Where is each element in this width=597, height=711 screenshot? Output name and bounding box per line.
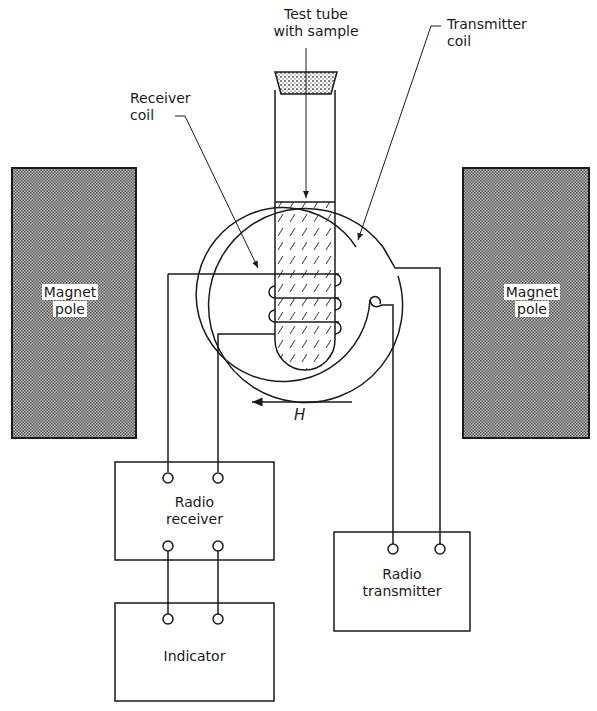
receiver-coil-pointer <box>175 116 258 268</box>
left-pole-label: Magnet pole <box>38 284 102 318</box>
label-line: Radio <box>115 494 274 511</box>
label-line: pole <box>53 301 87 317</box>
right-pole-label: Magnet pole <box>500 284 564 318</box>
label-line: receiver <box>115 511 274 528</box>
transmitter-coil-label: Transmitter coil <box>447 16 527 50</box>
receiver-coil-label: Receiver coil <box>130 90 191 124</box>
receiver-input-terminal <box>213 473 223 483</box>
radio-receiver-label: Radio receiver <box>115 494 274 528</box>
label-line: Receiver <box>130 90 191 107</box>
label-line: Magnet <box>42 284 99 300</box>
receiver-output-terminal <box>163 541 173 551</box>
test-tube <box>275 90 335 370</box>
test-tube-label: Test tube with sample <box>256 6 376 40</box>
indicator-label: Indicator <box>115 648 274 665</box>
label-line: Test tube <box>256 6 376 23</box>
transmitter-coil-pointer <box>358 26 441 240</box>
transmitter-terminal <box>435 544 445 554</box>
label-line: Magnet <box>504 284 561 300</box>
transmitter-terminal <box>388 544 398 554</box>
receiver-input-terminal <box>163 473 173 483</box>
indicator-terminal <box>163 614 173 624</box>
indicator-terminal <box>213 614 223 624</box>
label-line: with sample <box>256 23 376 40</box>
label-line: coil <box>130 107 191 124</box>
label-line: coil <box>447 33 527 50</box>
label-line: transmitter <box>334 583 470 600</box>
radio-transmitter-label: Radio transmitter <box>334 566 470 600</box>
label-line: pole <box>515 301 549 317</box>
field-label: H <box>294 407 305 424</box>
receiver-output-terminal <box>213 541 223 551</box>
label-line: Radio <box>334 566 470 583</box>
label-line: Transmitter <box>447 16 527 33</box>
nmr-diagram <box>0 0 597 711</box>
